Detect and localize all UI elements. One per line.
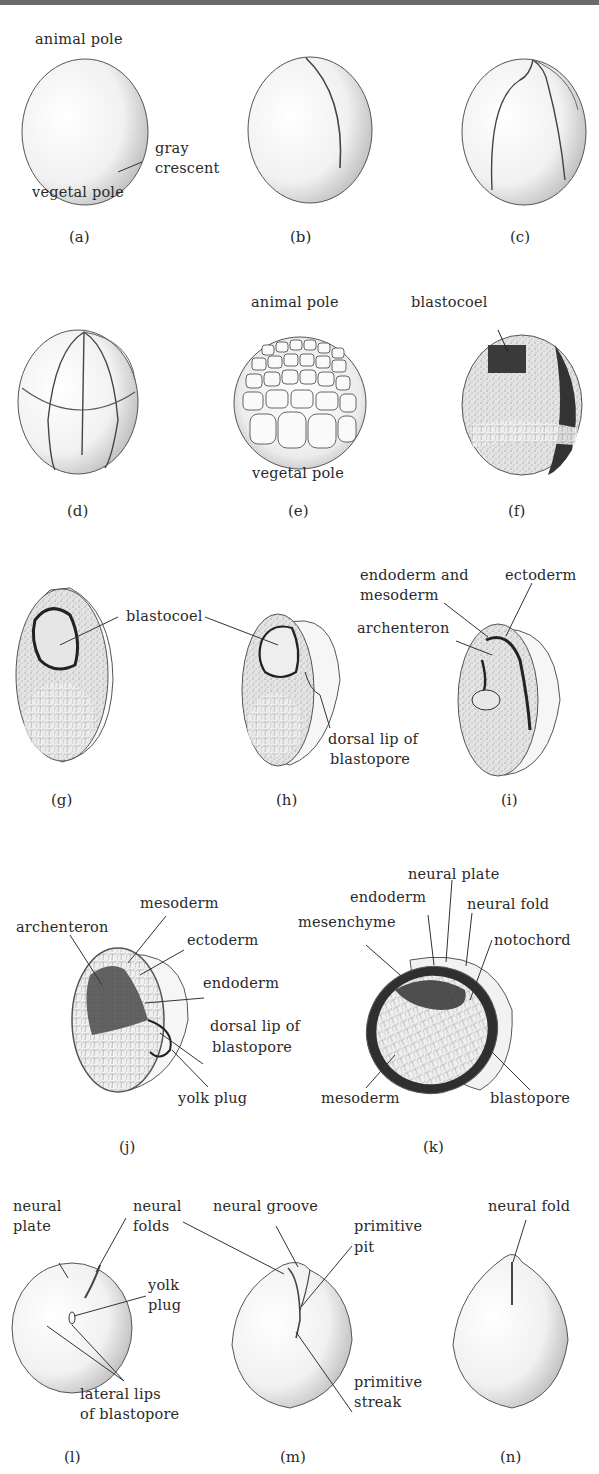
label-j-dorsal-lip-line2: blastopore [212,1039,292,1055]
label-l-neural-folds-line2: folds [133,1218,169,1234]
label-i-ectoderm: ectoderm [505,567,576,583]
label-j-mesoderm: mesoderm [140,895,219,911]
label-g-h-blastocoel: blastocoel [126,608,203,624]
label-i-archenteron: archenteron [357,620,450,636]
caption-l: (l) [64,1449,81,1465]
label-e-vegetal-pole: vegetal pole [252,465,344,481]
label-l-yolk-plug-line2: plug [148,1297,181,1313]
panel-c-egg [462,59,586,205]
caption-m: (m) [280,1449,306,1465]
caption-b: (b) [290,229,311,245]
label-a-gray-crescent-line1: gray [155,140,189,156]
label-m-primitive-streak-line2: streak [354,1394,401,1410]
embryo-illustrations [0,0,599,1474]
caption-e: (e) [288,503,309,519]
label-a-gray-crescent-line2: crescent [155,160,220,176]
caption-h: (h) [276,792,297,808]
panel-n-neurula-surface [453,1220,568,1408]
label-i-endoderm-and: endoderm and [360,567,469,583]
label-h-dorsal-lip-line2: blastopore [330,751,410,767]
label-a-vegetal-pole: vegetal pole [32,184,124,200]
panel-e-blastula [234,337,366,469]
panel-d-embryo [18,330,138,474]
caption-a: (a) [69,229,90,245]
label-l-lateral-lips-line1: lateral lips [80,1386,161,1402]
panel-m-neurula-surface [183,1222,352,1412]
label-l-neural-plate-line2: plate [13,1218,51,1234]
label-l-lateral-lips-line2: of blastopore [80,1406,179,1422]
label-j-endoderm: endoderm [203,975,279,991]
label-f-blastocoel: blastocoel [411,294,488,310]
label-m-primitive-pit-line2: pit [354,1239,374,1255]
label-k-mesoderm: mesoderm [321,1090,400,1106]
caption-k: (k) [423,1139,444,1155]
caption-f: (f) [508,503,525,519]
label-l-yolk-plug-line1: yolk [148,1277,179,1293]
label-k-endoderm: endoderm [350,889,426,905]
caption-g: (g) [51,792,72,808]
label-k-neural-fold: neural fold [467,896,549,912]
label-k-neural-plate: neural plate [408,866,499,882]
label-a-animal-pole: animal pole [35,31,123,47]
panel-i-gastrula [444,583,560,776]
label-h-dorsal-lip-line1: dorsal lip of [328,731,418,747]
label-m-primitive-pit-line1: primitive [354,1218,422,1234]
label-j-archenteron: archenteron [16,919,109,935]
label-k-blastopore: blastopore [490,1090,570,1106]
label-k-notochord: notochord [494,932,571,948]
panel-h-gastrula [205,614,340,766]
label-e-animal-pole: animal pole [251,294,339,310]
panel-g-gastrula [16,588,118,762]
panel-l-neurula-surface [12,1218,146,1393]
label-j-ectoderm: ectoderm [187,932,258,948]
caption-j: (j) [119,1139,135,1155]
caption-d: (d) [67,503,88,519]
caption-i: (i) [501,792,518,808]
caption-c: (c) [510,229,530,245]
label-l-neural-plate-line1: neural [13,1198,62,1214]
label-j-yolk-plug: yolk plug [178,1090,247,1106]
panel-b-egg [248,57,372,203]
label-m-primitive-streak-line1: primitive [354,1374,422,1390]
caption-n: (n) [500,1449,521,1465]
label-m-neural-groove: neural groove [213,1198,318,1214]
label-i-mesoderm: mesoderm [360,587,439,603]
label-k-mesenchyme: mesenchyme [298,914,396,930]
panel-f-blastula-section [462,330,582,475]
label-n-neural-fold: neural fold [488,1198,570,1214]
label-j-dorsal-lip-line1: dorsal lip of [210,1018,300,1034]
label-l-neural-folds-line1: neural [133,1198,182,1214]
